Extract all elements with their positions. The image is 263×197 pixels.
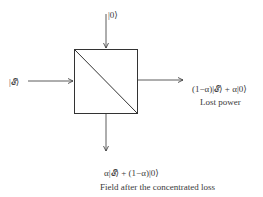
- top-input-label: |0⟩: [108, 11, 118, 20]
- left-input-label: |𝓔⟩: [9, 78, 19, 87]
- bottom-output-state: α|𝓔⟩ + (1−α)|0⟩: [104, 169, 159, 178]
- right-output-state: (1−α)|𝓔⟩ + α|0⟩: [192, 85, 247, 94]
- bottom-output-caption: Field after the concentrated loss: [100, 183, 215, 192]
- splitter-diagonal: [75, 50, 138, 114]
- right-output-caption: Lost power: [200, 98, 241, 107]
